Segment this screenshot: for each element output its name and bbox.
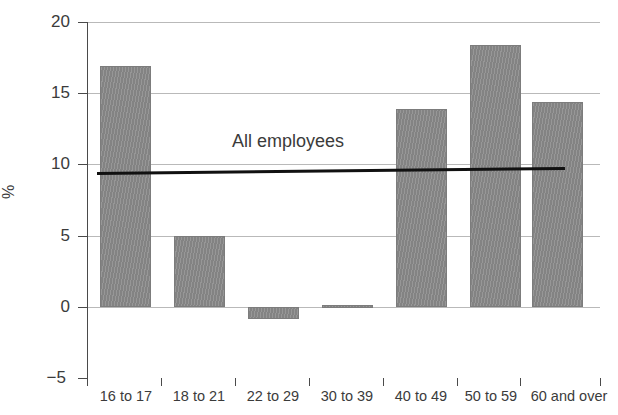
y-tick-0 — [78, 307, 87, 308]
gridline-20 — [87, 22, 600, 23]
bar-60-and-over — [532, 102, 583, 307]
y-axis-label-15: 15 — [26, 84, 70, 101]
y-axis-label-10: 10 — [26, 155, 70, 172]
y-axis-label-0: 0 — [26, 298, 70, 315]
y-tick-minus5 — [78, 378, 87, 379]
x-tick-7 — [600, 378, 601, 386]
bar-16-to-17 — [100, 66, 151, 307]
gridline-10 — [87, 164, 600, 165]
y-tick-15 — [78, 93, 87, 94]
bar-30-to-39 — [322, 305, 373, 308]
bar-40-to-49 — [396, 109, 447, 307]
gridline-5 — [87, 236, 600, 237]
y-tick-10 — [78, 164, 87, 165]
x-tick-4 — [383, 378, 384, 386]
x-axis-label-16-to-17: 16 to 17 — [90, 389, 162, 404]
bar-18-to-21 — [174, 236, 225, 307]
x-axis-label-50-to-59: 50 to 59 — [455, 389, 527, 404]
y-axis-title: % — [0, 185, 18, 199]
y-axis-line — [87, 22, 88, 378]
chart-container: 20 15 10 5 0 −5 % 16 to 17 18 to 21 22 t… — [0, 0, 618, 415]
y-tick-5 — [78, 236, 87, 237]
bar-22-to-29 — [248, 307, 299, 319]
x-tick-0 — [87, 378, 88, 386]
x-tick-1 — [161, 378, 162, 386]
x-tick-2 — [235, 378, 236, 386]
bar-50-to-59 — [470, 45, 521, 307]
gridline-15 — [87, 93, 600, 94]
y-axis-label-minus5: −5 — [22, 369, 66, 386]
y-axis-label-20: 20 — [26, 13, 70, 30]
x-axis-label-22-to-29: 22 to 29 — [237, 389, 309, 404]
x-axis-label-18-to-21: 18 to 21 — [163, 389, 235, 404]
x-axis-label-40-to-49: 40 to 49 — [385, 389, 457, 404]
y-axis-label-5: 5 — [26, 227, 70, 244]
x-tick-6 — [520, 378, 521, 386]
x-axis-label-60-and-over: 60 and over — [521, 389, 617, 404]
y-tick-20 — [78, 22, 87, 23]
x-tick-5 — [457, 378, 458, 386]
x-tick-3 — [309, 378, 310, 386]
all-employees-annotation-label: All employees — [232, 131, 344, 152]
x-axis-label-30-to-39: 30 to 39 — [311, 389, 383, 404]
